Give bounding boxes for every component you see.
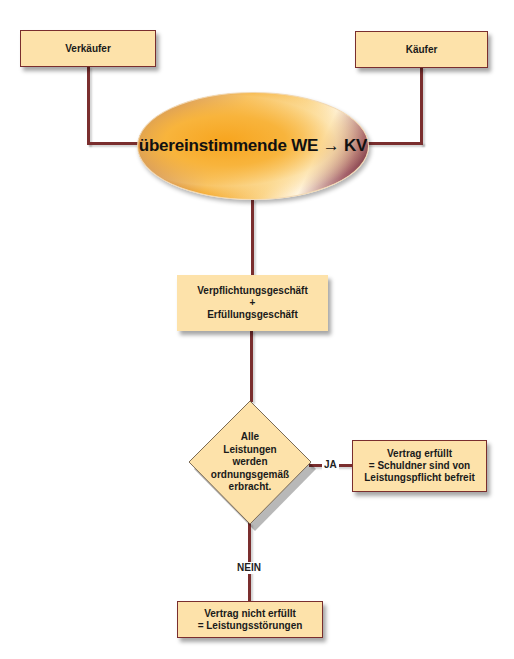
transactions-label: Verpflichtungsgeschäft + Erfüllungsgesch… (197, 285, 308, 321)
connector-ellipse-to-transactions (251, 199, 254, 276)
seller-box: Verkäufer (20, 30, 156, 67)
not-fulfilled-label: Vertrag nicht erfüllt = Leistungsstörung… (198, 608, 303, 632)
agreement-ellipse: übereinstimmende WE → KV (137, 92, 369, 200)
yes-label: JA (322, 459, 339, 471)
agreement-label: übereinstimmende WE → KV (139, 136, 368, 156)
connector-seller-down (87, 66, 90, 145)
decision-diamond: Alle Leistungen werden ordnungsgemäß erb… (188, 400, 312, 525)
no-label: NEIN (235, 562, 263, 574)
transactions-box: Verpflichtungsgeschäft + Erfüllungsgesch… (177, 275, 328, 331)
connector-buyer-to-ellipse (366, 142, 423, 145)
not-fulfilled-box: Vertrag nicht erfüllt = Leistungsstörung… (177, 601, 323, 638)
connector-buyer-down (420, 67, 423, 145)
fulfilled-label: Vertrag erfüllt = Schuldner sind von Lei… (364, 448, 475, 484)
fulfilled-box: Vertrag erfüllt = Schuldner sind von Lei… (352, 440, 487, 492)
connector-seller-to-ellipse (87, 142, 141, 145)
decision-label: Alle Leistungen werden ordnungsgemäß erb… (188, 400, 312, 525)
buyer-label: Käufer (406, 44, 438, 56)
buyer-box: Käufer (355, 31, 488, 68)
seller-label: Verkäufer (65, 43, 111, 55)
connector-transactions-to-decision (250, 330, 253, 402)
